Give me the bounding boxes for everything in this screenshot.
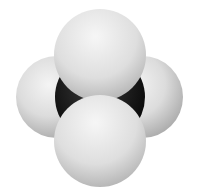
bottom-hydrogen-atom bbox=[54, 95, 146, 187]
molecule-model bbox=[0, 0, 200, 192]
top-hydrogen-atom bbox=[54, 9, 146, 101]
